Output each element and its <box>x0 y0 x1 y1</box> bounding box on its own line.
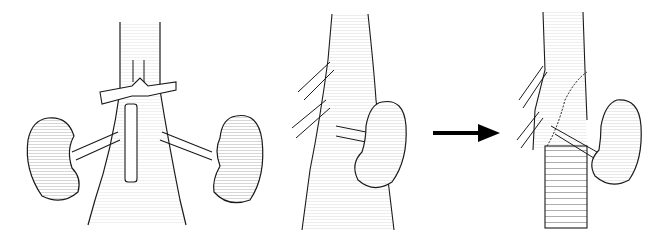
transition-arrow <box>430 0 502 247</box>
anterior-aorta-kidneys-drawing <box>0 0 280 247</box>
panel-anterior-view <box>0 0 280 247</box>
graft-repair-drawing <box>505 0 658 247</box>
panel-lateral-before <box>270 0 430 247</box>
arrow-right-icon <box>430 0 502 247</box>
panel-lateral-after-graft <box>505 0 658 247</box>
lateral-aorta-kidney-drawing <box>270 0 430 247</box>
